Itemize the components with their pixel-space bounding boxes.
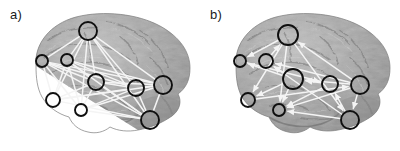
panel-a-canvas (0, 0, 200, 151)
panel-a-label: a) (10, 7, 22, 22)
brain-network-figure: a) (0, 0, 400, 151)
panel-b: b) (200, 0, 400, 151)
panel-a: a) (0, 0, 200, 151)
panel-b-label: b) (210, 7, 222, 22)
brain-image-b (220, 5, 400, 145)
panel-b-canvas (200, 0, 400, 151)
network-node (46, 93, 60, 107)
